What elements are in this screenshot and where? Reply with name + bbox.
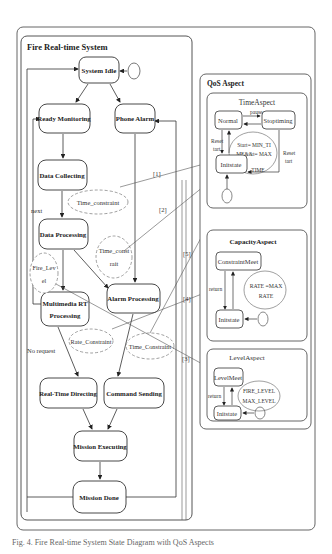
svg-text:Stoptiming: Stoptiming (264, 117, 294, 124)
state-mission-executing[interactable]: Mission Executing (73, 431, 127, 461)
svg-text:Mission Done: Mission Done (79, 494, 118, 501)
svg-text:System Idle: System Idle (82, 67, 117, 75)
state-phone-alarm[interactable]: Phone Alarm (115, 104, 155, 133)
level-aspect-title: LevelAspect (229, 354, 264, 362)
figure-caption: Fig. 4. Fire Real-time System State Diag… (12, 538, 214, 547)
state-data-processing[interactable]: Data Processing (39, 219, 88, 249)
link-label-2: [2] (159, 206, 167, 214)
constraint-rate: Rate_Constraint (69, 329, 113, 353)
svg-text:LevelMeet: LevelMeet (214, 374, 242, 381)
state-initstate-capacity[interactable]: Initstate (216, 310, 243, 328)
svg-text:Phone Alarm: Phone Alarm (116, 115, 155, 122)
svg-text:Alarm Processing: Alarm Processing (107, 295, 159, 302)
state-realtime-directing[interactable]: Real-Time Directing (39, 378, 97, 408)
svg-text:Normal: Normal (218, 117, 238, 124)
label-reset-right: Reset (283, 150, 296, 156)
svg-text:Initstate: Initstate (217, 410, 237, 417)
guard-level: FIRE_LEVEL MAX_LEVEL (238, 381, 280, 411)
state-constraint-meet[interactable]: ConstraintMeet (216, 252, 261, 270)
label-no-request: No request (27, 347, 56, 354)
label-pause: pause (250, 109, 263, 115)
svg-text:Rate_Constraint: Rate_Constraint (71, 338, 112, 345)
state-stoptiming[interactable]: Stoptiming (262, 111, 295, 129)
svg-text:MAX_LEVEL: MAX_LEVEL (243, 398, 277, 404)
svg-text:Real-Time Directing: Real-Time Directing (39, 390, 97, 397)
svg-text:Processing: Processing (50, 312, 81, 319)
svg-text:FIRE_LEVEL: FIRE_LEVEL (243, 388, 276, 394)
svg-text:rait: rait (110, 260, 119, 267)
constraint-time-3: Time_Constraint (126, 333, 174, 359)
state-ready-monitoring[interactable]: Ready Monitoring (37, 104, 91, 133)
svg-text:Time_constraint: Time_constraint (77, 199, 120, 206)
state-mission-done[interactable]: Mission Done (73, 481, 126, 513)
capacity-aspect-title: CapacityAspect (229, 238, 277, 246)
svg-text:tart: tart (285, 158, 293, 164)
svg-text:el: el (42, 277, 47, 284)
state-system-idle[interactable]: System Idle (79, 57, 119, 83)
state-data-collecting[interactable]: Data Collecting (38, 160, 87, 190)
qos-aspect-title: QoS Aspect (207, 79, 244, 88)
svg-text:Ready Monitoring: Ready Monitoring (37, 115, 91, 122)
svg-text:Data Collecting: Data Collecting (39, 172, 85, 179)
svg-text:Multimedia RT: Multimedia RT (43, 300, 88, 307)
svg-text:tart: tart (213, 146, 221, 152)
svg-text:Time_Constraint: Time_Constraint (129, 343, 172, 350)
initial-state (128, 63, 140, 79)
constraint-time-2: Time_const rait (96, 236, 132, 278)
svg-text:RATE =MAX: RATE =MAX (250, 283, 284, 289)
fire-system-title: Fire Real-time System (27, 42, 108, 52)
state-diagram: Fire Real-time System System Idle Ready … (0, 0, 332, 554)
guard-rate: RATE =MAX RATE (244, 271, 286, 309)
svg-text:RATE: RATE (259, 293, 274, 299)
svg-text:Initstate: Initstate (221, 161, 242, 168)
loop-line-outer (27, 69, 78, 512)
label-return-capacity: return (209, 286, 222, 292)
state-level-meet[interactable]: LevelMeet (214, 368, 243, 386)
state-initstate-time[interactable]: Initstate (216, 155, 247, 173)
link-label-3: [3] (182, 355, 190, 363)
svg-text:Start= MIN_TI: Start= MIN_TI (237, 142, 271, 148)
state-normal[interactable]: Normal (215, 111, 242, 129)
constraint-fire-level: Fire_Lev el (30, 253, 58, 293)
label-next: next (31, 207, 42, 214)
link-label-4: [4] (183, 295, 191, 303)
state-initstate-level[interactable]: Initstate (214, 406, 241, 420)
state-alarm-processing[interactable]: Alarm Processing (107, 284, 160, 313)
state-command-sending[interactable]: Command Sending (104, 378, 164, 408)
svg-text:Mission Executing: Mission Executing (73, 443, 127, 450)
svg-text:Fire_Lev: Fire_Lev (32, 264, 56, 271)
svg-text:TIME: TIME (251, 167, 265, 173)
constraint-time-1: Time_constraint (68, 190, 128, 214)
svg-text:Command Sending: Command Sending (106, 390, 162, 397)
svg-text:Data Processing: Data Processing (40, 231, 87, 238)
state-multimedia-rt-processing[interactable]: Multimedia RT Processing (41, 292, 89, 326)
time-aspect-title: TimeAspect (239, 98, 276, 107)
label-return-level: return (208, 393, 221, 399)
link-label-5: [5] (183, 250, 191, 258)
svg-text:Initstate: Initstate (219, 316, 240, 323)
svg-text:ConstraintMeet: ConstraintMeet (218, 258, 259, 265)
link-label-1: [1] (153, 170, 161, 178)
